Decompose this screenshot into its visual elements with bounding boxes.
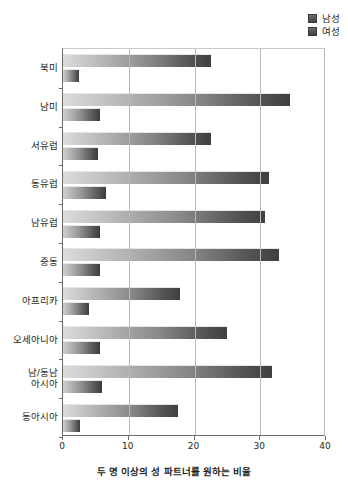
- bar-female: [63, 147, 98, 160]
- legend-swatch-female-icon: [308, 27, 317, 36]
- x-axis-tick: [62, 436, 63, 440]
- bar-female: [63, 380, 102, 393]
- x-axis-tick: [325, 436, 326, 440]
- y-axis-tick: [59, 127, 63, 128]
- legend-swatch-male-icon: [308, 14, 317, 23]
- bar-female: [63, 69, 79, 82]
- bar-group: [63, 127, 324, 166]
- chart-legend: 남성 여성: [308, 14, 340, 36]
- bar-group: [63, 88, 324, 127]
- category-axis-labels: 북미남미서유럽동유럽남유럽중동아프리카오세아니아남/동남 아시아동아시아: [0, 48, 58, 436]
- bar-male: [63, 210, 265, 223]
- y-axis-tick: [59, 359, 63, 360]
- category-label: 동아시아: [0, 411, 58, 422]
- x-axis-tick: [259, 436, 260, 440]
- y-axis-tick: [59, 398, 63, 399]
- bar-male: [63, 326, 227, 339]
- gridline: [129, 49, 130, 435]
- x-axis-tick-label: 20: [188, 441, 199, 451]
- bar-group: [63, 282, 324, 321]
- category-label: 동유럽: [0, 178, 58, 189]
- category-label: 북미: [0, 62, 58, 73]
- bar-male: [63, 54, 211, 67]
- x-axis-tick-label: 0: [59, 441, 65, 451]
- legend-label-female: 여성: [322, 27, 340, 37]
- category-label: 서유럽: [0, 140, 58, 151]
- bar-female: [63, 108, 100, 121]
- bar-male: [63, 365, 272, 378]
- bar-group: [63, 398, 324, 437]
- legend-label-male: 남성: [322, 14, 340, 24]
- bar-group: [63, 243, 324, 282]
- category-label: 아프리카: [0, 295, 58, 306]
- category-label: 남/동남 아시아: [0, 367, 58, 389]
- y-axis-tick: [59, 321, 63, 322]
- y-axis-tick: [59, 165, 63, 166]
- bar-female: [63, 341, 100, 354]
- bar-male: [63, 93, 290, 106]
- gridline: [195, 49, 196, 435]
- x-axis: 010203040: [62, 436, 325, 440]
- y-axis-tick: [59, 88, 63, 89]
- bar-group: [63, 321, 324, 360]
- bar-female: [63, 419, 80, 432]
- y-axis-tick: [59, 204, 63, 205]
- x-axis-tick-label: 30: [254, 441, 265, 451]
- y-axis-tick: [59, 282, 63, 283]
- gridline: [260, 49, 261, 435]
- y-axis-tick: [59, 243, 63, 244]
- bar-group: [63, 165, 324, 204]
- bar-male: [63, 171, 269, 184]
- bar-group: [63, 359, 324, 398]
- category-label: 남미: [0, 101, 58, 112]
- x-axis-tick: [194, 436, 195, 440]
- bar-rows: [63, 49, 324, 435]
- bar-male: [63, 248, 279, 261]
- bar-male: [63, 404, 178, 417]
- x-axis-title: 두 명 이상의 성 파트너를 원하는 비율: [0, 464, 348, 478]
- category-label: 남유럽: [0, 217, 58, 228]
- category-label: 오세아니아: [0, 334, 58, 345]
- bar-chart: 남성 여성 북미남미서유럽동유럽남유럽중동아프리카오세아니아남/동남 아시아동아…: [0, 0, 348, 496]
- bar-group: [63, 204, 324, 243]
- legend-item-female: 여성: [308, 27, 340, 37]
- x-axis-tick-label: 40: [319, 441, 330, 451]
- bar-female: [63, 186, 106, 199]
- bar-female: [63, 302, 89, 315]
- bar-female: [63, 263, 100, 276]
- x-axis-tick-label: 10: [122, 441, 133, 451]
- bar-female: [63, 225, 100, 238]
- x-axis-tick: [128, 436, 129, 440]
- category-label: 중동: [0, 256, 58, 267]
- bar-male: [63, 287, 180, 300]
- bar-group: [63, 49, 324, 88]
- bar-male: [63, 132, 211, 145]
- legend-item-male: 남성: [308, 14, 340, 24]
- plot-area: [62, 48, 325, 436]
